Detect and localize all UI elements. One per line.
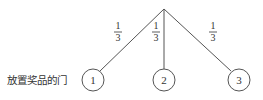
svg-text:1: 1 (211, 20, 216, 31)
svg-text:3: 3 (154, 32, 159, 43)
svg-text:1: 1 (90, 74, 96, 86)
probability-tree-diagram: 1 3 1 3 1 3 放置奖品的门 1 2 3 (0, 0, 263, 100)
door-node-1: 1 (82, 69, 104, 91)
svg-text:2: 2 (161, 74, 167, 86)
svg-text:1: 1 (116, 20, 121, 31)
probability-label-1: 1 3 (114, 20, 122, 43)
row-label: 放置奖品的门 (7, 74, 67, 86)
branch-line-3 (164, 9, 231, 71)
probability-label-2: 1 3 (152, 20, 160, 43)
svg-text:1: 1 (154, 20, 159, 31)
svg-text:3: 3 (211, 32, 216, 43)
probability-label-3: 1 3 (209, 20, 217, 43)
door-node-3: 3 (228, 69, 250, 91)
svg-text:3: 3 (236, 74, 242, 86)
svg-text:3: 3 (116, 32, 121, 43)
door-node-2: 2 (153, 69, 175, 91)
